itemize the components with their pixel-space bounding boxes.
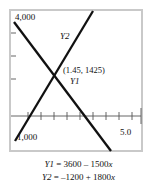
y-axis-ticks — [11, 33, 16, 79]
equation-y2-x: x — [111, 172, 115, 182]
figure-root: 4,000 1,000 5.0 (1.45, 1425) Y1 Y2 Y1 = … — [0, 0, 157, 196]
x-axis-max-label: 5.0 — [120, 128, 131, 137]
equation-y1: Y1 = 3600 – 1500x — [0, 158, 157, 171]
equation-y2-var: Y2 — [42, 172, 52, 182]
y-axis-min-label: 1,000 — [17, 133, 37, 142]
equation-y1-x: x — [109, 159, 113, 169]
equation-y1-body: = 3600 – 1500 — [54, 159, 109, 169]
equation-y2-body: = –1200 + 1800 — [51, 172, 111, 182]
equations-caption: Y1 = 3600 – 1500x Y2 = –1200 + 1800x — [0, 158, 157, 184]
intersection-point-label: (1.45, 1425) — [63, 66, 105, 75]
equation-y2: Y2 = –1200 + 1800x — [0, 171, 157, 184]
series-label-y1: Y1 — [70, 77, 80, 86]
line-y2 — [15, 11, 93, 141]
equation-y1-var: Y1 — [44, 159, 54, 169]
series-label-y2: Y2 — [60, 32, 70, 41]
y-axis-max-label: 4,000 — [15, 13, 35, 22]
